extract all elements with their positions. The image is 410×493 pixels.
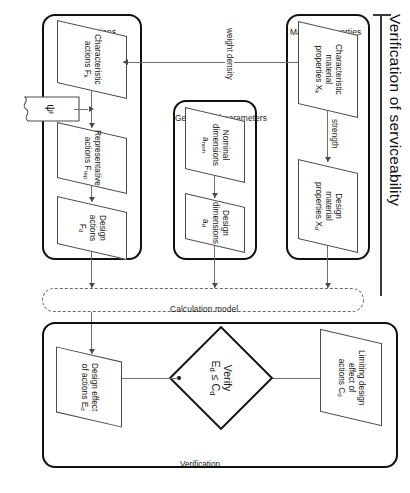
node-line-1: Limiting design: [357, 350, 367, 405]
arrow-nominal-to-design-dim: [212, 193, 218, 198]
arrow-rep-to-design-actions: [89, 197, 95, 202]
node-sub: d: [79, 407, 85, 410]
connector-verify-to-design-effect: [122, 378, 178, 379]
edge-label-weight-density: weight density: [225, 26, 234, 82]
node-line-1: Nominal: [221, 130, 231, 160]
node-line-1: Design: [334, 193, 344, 219]
node-line-2: actions F: [83, 137, 93, 171]
node-line-2: material: [324, 55, 334, 85]
node-line-2: effect of: [347, 363, 357, 392]
node-line-3: actions C: [337, 359, 347, 394]
connector-strength: [327, 111, 328, 162]
arrow-weight-density: [123, 59, 128, 65]
node-line-3: properties X: [314, 46, 324, 91]
connector-weight-density: [123, 62, 298, 63]
node-line-2: actions F: [83, 41, 93, 75]
title-underline: [380, 14, 382, 296]
connector-material-to-model: [327, 246, 328, 288]
node-sub: k: [82, 75, 88, 78]
connector-psi-to-edge: [74, 109, 88, 110]
node-sub: d: [313, 227, 319, 230]
node-line-2: material: [324, 191, 334, 221]
node-sub: rep: [82, 171, 88, 180]
node-line-1: Characteristic: [93, 34, 103, 85]
arrow-psi-to-edge: [89, 106, 94, 112]
node-line-1: Design effect: [90, 363, 100, 411]
node-line-1: Design: [221, 210, 231, 236]
node-sub: k: [313, 90, 319, 93]
title-tick: [373, 14, 391, 16]
node-line-2: of actions E: [80, 364, 90, 407]
node-line-1: Design actions: [88, 215, 108, 241]
node-sub: d: [77, 229, 83, 232]
group-label-verification: Verification: [180, 460, 220, 469]
edge-label-strength: strength: [330, 117, 339, 151]
node-line-1: Representative: [93, 130, 103, 186]
node-design-material-properties: Design material properties Xd: [298, 159, 358, 253]
node-line-3: properties X: [314, 182, 324, 227]
page-title: Verification of serviceability: [386, 14, 404, 206]
node-psi-label: ψi: [18, 96, 80, 122]
arrow-strength: [325, 157, 331, 162]
node-sub: d: [200, 224, 206, 227]
node-limiting-design-effect: Limiting design effect of actions Cd: [320, 329, 382, 426]
node-sub: d: [336, 393, 342, 396]
connector-dim-to-model: [214, 246, 215, 288]
group-label-calculation-model: Calculation model: [170, 304, 238, 314]
node-psi-factor: ψi: [18, 96, 80, 122]
diagram-canvas: Verification of serviceability Material …: [0, 0, 410, 493]
node-characteristic-material-properties: Characteristic material properties Xk: [298, 21, 358, 118]
node-line-1: Characteristic: [334, 44, 344, 95]
node-sub: nom: [200, 142, 206, 154]
